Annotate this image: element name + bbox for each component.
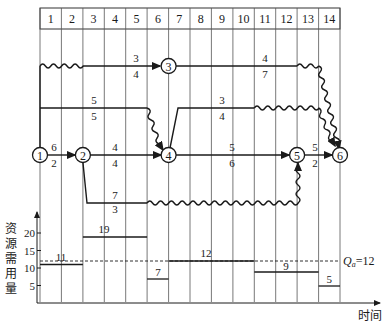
- node-4: 4: [161, 148, 176, 163]
- y-tick: 5: [30, 280, 36, 292]
- svg-text:3: 3: [166, 60, 172, 74]
- x-axis-label: 时间: [358, 309, 382, 323]
- activity-2-5-top: 7: [112, 189, 118, 201]
- activity-1-3-top: 3: [133, 52, 139, 64]
- time-label: 9: [219, 12, 225, 26]
- time-label: 2: [69, 12, 75, 26]
- svg-text:源: 源: [5, 237, 17, 251]
- y-tick: 10: [24, 262, 36, 274]
- bar-label: 5: [327, 273, 333, 285]
- activity-3-6-bottom: 7: [262, 68, 268, 80]
- resource-limit-label: Qa=12: [343, 254, 374, 269]
- activity-2-4-bottom: 4: [112, 157, 118, 169]
- svg-text:量: 量: [5, 282, 17, 296]
- time-label: 1: [48, 12, 54, 26]
- time-label: 8: [198, 12, 204, 26]
- svg-text:4: 4: [166, 149, 172, 163]
- activity-4-6-bottom: 4: [219, 110, 225, 122]
- svg-text:6: 6: [337, 149, 343, 163]
- activity-1-4-top: 5: [91, 94, 97, 106]
- y-axis-label: 资 源 需 用 量: [5, 222, 17, 296]
- svg-text:1: 1: [37, 149, 43, 163]
- arrow-2-5-wavy-up: [296, 163, 300, 203]
- time-label: 5: [133, 12, 139, 26]
- y-tick: 20: [24, 227, 36, 239]
- activity-1-2-bottom: 2: [51, 157, 57, 169]
- activity-4-5-top: 5: [229, 141, 235, 153]
- time-header-labels: 1 2 3 4 5 6 7 8 9 10 11 12 13 14: [48, 12, 336, 26]
- activity-labels: 6 2 3 4 5 5 4 4 7 3 4 7 3 4 5 6 5 2: [51, 52, 318, 215]
- network-diagram: 1 2 3 4 5 6 7 8 9 10 11 12 13 14: [0, 0, 392, 327]
- time-label: 13: [302, 12, 314, 26]
- bar-label: 9: [283, 260, 289, 272]
- bar-label: 19: [99, 223, 111, 235]
- activity-2-4-top: 4: [112, 141, 118, 153]
- node-3: 3: [161, 59, 176, 74]
- node-2: 2: [75, 148, 90, 163]
- time-label: 14: [323, 12, 335, 26]
- svg-text:用: 用: [5, 267, 17, 281]
- arrow-4-6-wavy-down: [319, 108, 336, 146]
- time-label: 6: [155, 12, 161, 26]
- bar-label: 7: [155, 266, 161, 278]
- arrow-1-4-wavy: [147, 108, 163, 150]
- time-label: 7: [176, 12, 182, 26]
- arrow-4-6: [170, 108, 254, 148]
- time-label: 11: [259, 12, 271, 26]
- bar-label: 11: [56, 251, 67, 263]
- activity-1-3-bottom: 4: [133, 68, 139, 80]
- arrow-4-6-wavy: [254, 106, 319, 110]
- time-label: 12: [280, 12, 292, 26]
- activity-4-6-top: 3: [219, 94, 225, 106]
- node-1: 1: [33, 148, 48, 163]
- activity-1-4-bottom: 5: [91, 110, 97, 122]
- node-6: 6: [333, 148, 348, 163]
- svg-text:资: 资: [5, 222, 17, 236]
- activity-3-6-top: 4: [262, 52, 268, 64]
- time-label: 10: [238, 12, 250, 26]
- time-label: 3: [91, 12, 97, 26]
- svg-text:2: 2: [80, 149, 86, 163]
- node-5: 5: [290, 148, 305, 163]
- arrow-3-6-wavy: [297, 64, 319, 68]
- activity-4-5-bottom: 6: [229, 157, 235, 169]
- activity-5-6-bottom: 2: [312, 157, 318, 169]
- time-label: 4: [112, 12, 118, 26]
- svg-text:需: 需: [5, 252, 17, 266]
- activity-2-5-bottom: 3: [112, 203, 118, 215]
- bar-label: 12: [201, 247, 212, 259]
- activity-1-2-top: 6: [51, 141, 57, 153]
- y-tick: 15: [24, 245, 36, 257]
- svg-text:5: 5: [294, 149, 300, 163]
- activity-5-6-top: 5: [312, 141, 318, 153]
